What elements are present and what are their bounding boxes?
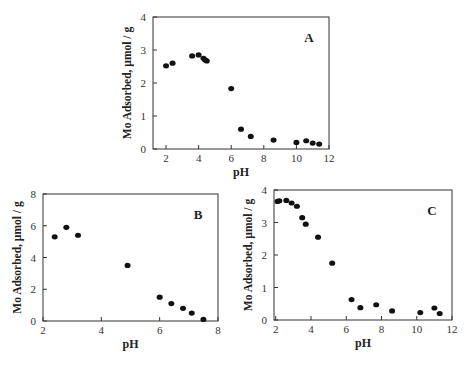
x-tick-label: 6 (228, 152, 234, 164)
data-point (349, 297, 355, 302)
data-point (389, 308, 395, 313)
x-tick-label: 4 (99, 324, 105, 336)
data-point (271, 137, 277, 142)
data-point (431, 305, 437, 310)
x-axis-label: pH (355, 336, 372, 350)
y-tick-label: 2 (31, 283, 37, 295)
data-point (299, 215, 305, 220)
data-point (157, 295, 163, 300)
y-tick-label: 1 (262, 282, 268, 294)
figure-canvas: 2468101201234pHMo Adsorbed, µmol / gA 24… (0, 0, 466, 365)
y-tick-label: 4 (141, 11, 147, 23)
x-axis-label: pH (122, 337, 139, 351)
panel-label: A (304, 30, 314, 45)
data-point (228, 86, 234, 91)
data-point (204, 58, 210, 63)
y-tick-label: 4 (31, 252, 37, 264)
data-point (163, 63, 169, 68)
data-point (125, 263, 131, 268)
data-point (303, 222, 309, 227)
y-tick-label: 1 (141, 110, 147, 122)
x-axis-label: pH (233, 165, 250, 179)
data-point (373, 302, 379, 307)
x-tick-label: 4 (308, 323, 314, 335)
data-point (289, 200, 295, 205)
y-axis-label: Mo Adsorbed, µmol / g (11, 201, 24, 314)
data-point (248, 134, 254, 139)
y-tick-label: 3 (141, 44, 147, 56)
data-point (437, 311, 443, 316)
x-tick-label: 2 (40, 324, 46, 336)
data-point (189, 310, 195, 315)
data-point (75, 233, 81, 238)
data-point (52, 234, 58, 239)
x-tick-label: 10 (411, 323, 423, 335)
y-tick-label: 6 (31, 220, 37, 232)
data-point (303, 138, 309, 143)
y-tick-label: 0 (141, 143, 147, 155)
y-tick-label: 4 (262, 184, 268, 196)
panel-label: B (194, 207, 203, 222)
data-point (238, 127, 244, 132)
data-point (189, 53, 195, 58)
plot-frame (43, 194, 218, 321)
x-tick-label: 12 (447, 323, 458, 335)
data-point (294, 204, 300, 209)
x-tick-label: 6 (344, 323, 350, 335)
data-point (310, 140, 316, 145)
x-tick-label: 2 (273, 323, 279, 335)
data-point (170, 61, 176, 66)
plot-frame (274, 190, 452, 320)
data-point (293, 140, 299, 145)
x-tick-label: 2 (163, 152, 169, 164)
x-tick-label: 10 (291, 152, 303, 164)
chart-panel-a: 2468101201234pHMo Adsorbed, µmol / gA (121, 11, 335, 179)
y-tick-label: 0 (31, 315, 37, 327)
y-tick-label: 3 (262, 217, 268, 229)
y-tick-label: 2 (141, 77, 147, 89)
x-tick-label: 8 (261, 152, 267, 164)
y-tick-label: 2 (262, 249, 268, 261)
data-point (180, 306, 186, 311)
data-point (316, 141, 322, 146)
data-point (283, 198, 289, 203)
data-point (357, 305, 363, 310)
x-tick-label: 6 (157, 324, 163, 336)
data-point (315, 235, 321, 240)
y-tick-label: 0 (262, 314, 268, 326)
data-point (329, 261, 335, 266)
y-axis-label: Mo Adsorbed, µmol / g (242, 199, 255, 312)
data-point (200, 317, 206, 322)
chart-panel-c: 2468101201234pHMo Adsorbed, µmol / gC (242, 184, 458, 350)
y-axis-label: Mo Adsorbed, µmol / g (121, 27, 134, 140)
data-point (196, 52, 202, 57)
data-point (168, 301, 174, 306)
data-point (417, 310, 423, 315)
data-point (276, 198, 282, 203)
panel-label: C (427, 203, 436, 218)
chart-panel-b: 246802468pHMo Adsorbed, µmol / gB (11, 188, 221, 351)
x-tick-label: 12 (324, 152, 335, 164)
data-point (63, 225, 69, 230)
x-tick-label: 8 (215, 324, 221, 336)
x-tick-label: 8 (379, 323, 385, 335)
y-tick-label: 8 (31, 188, 37, 200)
x-tick-label: 4 (196, 152, 202, 164)
